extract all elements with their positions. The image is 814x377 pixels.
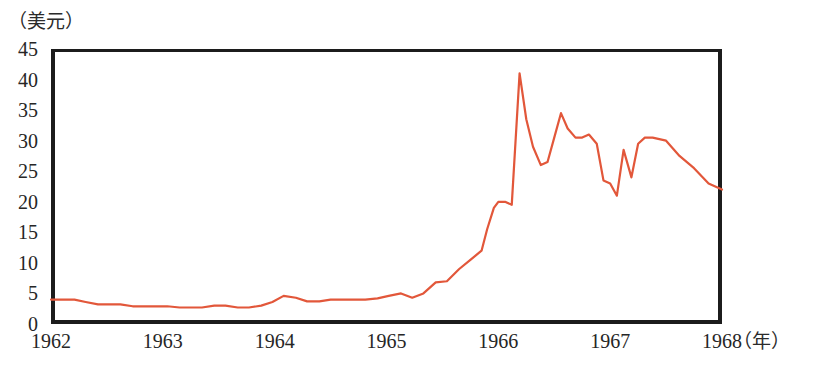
x-axis-tick: 1963 xyxy=(143,330,183,352)
line-chart: （美元） 454035302520151050 1962196319641965… xyxy=(0,0,814,377)
y-axis-tick-labels: 454035302520151050 xyxy=(0,0,46,377)
x-axis-tick: 1966 xyxy=(478,330,518,352)
x-axis-tick: 1962 xyxy=(31,330,71,352)
y-axis-tick: 30 xyxy=(18,131,38,151)
x-axis-tick: 1965 xyxy=(367,330,407,352)
y-axis-tick: 15 xyxy=(18,222,38,242)
y-axis-tick: 45 xyxy=(18,39,38,59)
price-line xyxy=(51,73,722,307)
y-axis-tick: 20 xyxy=(18,192,38,212)
y-axis-tick: 25 xyxy=(18,161,38,181)
y-axis-tick: 10 xyxy=(18,253,38,273)
x-axis-tick-labels: 1962196319641965196619671968 xyxy=(0,330,814,360)
y-axis-tick: 35 xyxy=(18,100,38,120)
x-axis-tick: 1964 xyxy=(255,330,295,352)
x-axis-tick: 1967 xyxy=(590,330,630,352)
y-axis-tick: 5 xyxy=(28,283,38,303)
y-axis-tick: 40 xyxy=(18,70,38,90)
series-layer xyxy=(51,49,722,324)
x-axis-unit-label: （年） xyxy=(733,330,790,352)
